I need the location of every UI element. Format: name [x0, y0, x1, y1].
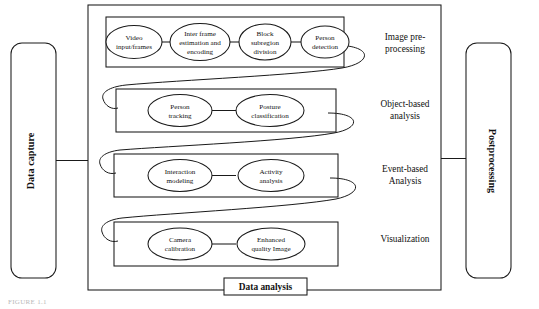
node-video-input-frames-line1: Video	[126, 34, 143, 42]
row-visualization: Camera calibration Enhanced quality Imag…	[114, 222, 338, 266]
node-activity-analysis-line2: analysis	[260, 177, 283, 185]
stage-label-image-preprocessing-line1: Image pre-	[385, 32, 426, 42]
flow-curve-row2-to-row3	[100, 113, 354, 174]
data-analysis-caption-label: Data analysis	[239, 282, 293, 292]
node-posture-classification-line1: Posture	[259, 103, 280, 111]
node-block-subregion-division-line2: subregion	[251, 39, 279, 47]
stage-label-event-based-analysis-line2: Analysis	[389, 176, 422, 186]
stage-label-object-based-analysis-line1: Object-based	[380, 99, 429, 109]
node-enhanced-quality-image-line1: Enhanced	[257, 236, 285, 244]
row-image-preprocessing: Video input/frames Inter frame estimatio…	[106, 17, 349, 67]
node-interaction-modeling-line1: Interaction	[165, 168, 196, 176]
node-inter-frame-estimation-line3: encoding	[187, 48, 213, 56]
node-inter-frame-estimation-line2: estimation and	[179, 39, 221, 47]
stage-label-event-based-analysis-line1: Event-based	[382, 164, 428, 174]
node-person-detection-line2: detection	[312, 43, 338, 51]
stage-label-visualization-line1: Visualization	[380, 234, 429, 244]
stage-label-object-based-analysis-line2: analysis	[390, 111, 420, 121]
node-camera-calibration-line2: calibration	[165, 245, 196, 253]
row-event-based-analysis: Interaction modeling Activity analysis	[114, 154, 338, 197]
node-activity-analysis-line1: Activity	[259, 168, 283, 176]
node-person-detection-line1: Person	[315, 34, 335, 42]
node-block-subregion-division-line3: division	[254, 48, 277, 56]
node-enhanced-quality-image-line2: quality Image	[251, 245, 290, 253]
data-capture-label: Data capture	[25, 132, 36, 189]
figure-caption: FIGURE 1.1	[8, 297, 47, 308]
node-camera-calibration-line1: Camera	[169, 236, 192, 244]
node-person-tracking-line1: Person	[170, 103, 190, 111]
node-person-tracking-line2: tracking	[168, 112, 192, 120]
row-object-based-analysis: Person tracking Posture classification	[116, 89, 336, 132]
figure-root: Data capture Postprocessing Video input/…	[0, 0, 539, 309]
flow-curve-row3-to-row4	[102, 178, 356, 242]
pipeline-diagram: Data capture Postprocessing Video input/…	[0, 0, 539, 309]
postprocessing-label: Postprocessing	[487, 129, 498, 193]
stage-label-image-preprocessing-line2: processing	[385, 44, 425, 54]
node-inter-frame-estimation-line1: Inter frame	[184, 30, 216, 38]
node-video-input-frames-line2: input/frames	[116, 43, 152, 51]
node-interaction-modeling-line2: modeling	[167, 177, 194, 185]
node-block-subregion-division-line1: Block	[257, 30, 274, 38]
node-posture-classification-line2: classification	[251, 112, 289, 120]
